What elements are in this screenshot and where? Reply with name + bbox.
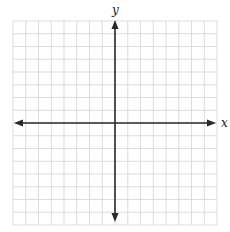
axes bbox=[14, 20, 216, 222]
coordinate-plane: x y bbox=[0, 0, 230, 232]
x-axis-left-arrow-icon bbox=[14, 120, 23, 127]
y-axis-label: y bbox=[111, 3, 119, 17]
x-axis-label: x bbox=[221, 116, 228, 130]
y-axis-bottom-arrow-icon bbox=[112, 213, 119, 222]
x-axis-right-arrow-icon bbox=[207, 120, 216, 127]
